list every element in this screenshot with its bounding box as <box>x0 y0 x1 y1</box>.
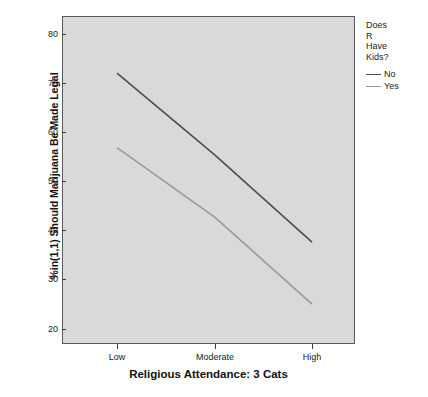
y-axis-title: %in(1,1) Should Marijuana Be Made Legal <box>48 26 60 326</box>
y-tick-mark-70 <box>62 83 66 84</box>
legend-swatch-yes-icon <box>366 86 381 87</box>
legend-swatch-no-icon <box>366 74 381 75</box>
legend-title-line-4: Kids? <box>366 52 426 63</box>
y-tick-mark-50 <box>62 181 66 182</box>
legend-item-no[interactable]: No <box>366 68 426 80</box>
x-tick-label-low: Low <box>82 352 152 362</box>
legend-label-no: No <box>384 69 396 79</box>
x-tick-mark-high <box>312 344 313 349</box>
legend-title-line-1: Does <box>366 20 426 31</box>
plot-series-svg <box>62 16 355 344</box>
y-tick-mark-80 <box>62 34 66 35</box>
y-tick-mark-60 <box>62 132 66 133</box>
x-axis-title: Religious Attendance: 3 Cats <box>62 368 355 380</box>
y-tick-mark-30 <box>62 279 66 280</box>
x-tick-label-moderate: Moderate <box>180 352 250 362</box>
x-tick-mark-moderate <box>215 344 216 349</box>
x-tick-label-high: High <box>277 352 347 362</box>
legend-title: Does R Have Kids? <box>366 20 426 62</box>
legend: Does R Have Kids? No Yes <box>366 20 426 92</box>
series-line-yes <box>117 148 312 305</box>
legend-items: No Yes <box>366 68 426 92</box>
legend-title-line-3: Have <box>366 41 426 52</box>
y-tick-mark-40 <box>62 230 66 231</box>
x-tick-mark-low <box>117 344 118 349</box>
legend-title-line-2: R <box>366 31 426 42</box>
y-tick-label-20: 20 <box>32 325 58 334</box>
legend-label-yes: Yes <box>384 81 399 91</box>
y-tick-mark-20 <box>62 329 66 330</box>
line-chart: 80 70 60 50 40 30 20 Low Moderate High %… <box>0 0 428 397</box>
legend-item-yes[interactable]: Yes <box>366 80 426 92</box>
